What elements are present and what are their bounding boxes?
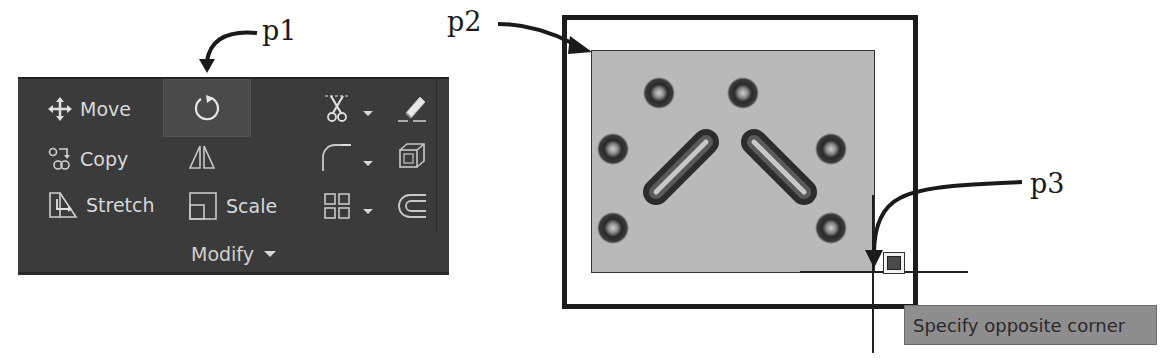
fillet-button[interactable] [321,141,353,173]
modify-ribbon-panel: Move Copy Stretch [18,77,449,275]
eraser-icon [396,93,428,123]
part-geometry [591,50,875,273]
trim-button[interactable] [323,93,351,123]
mirror-button[interactable] [188,144,216,170]
copy-label: Copy [80,148,128,170]
explode-cube-icon [398,142,426,170]
erase-button[interactable] [396,93,428,123]
scissors-trim-icon [323,93,351,123]
rotate-button[interactable] [163,79,251,137]
array-button[interactable] [323,192,351,220]
fillet-icon [321,141,353,173]
callout-p3-arrow-icon [862,170,1027,270]
callout-p1-label: p1 [262,17,296,44]
offset-button[interactable] [398,193,428,219]
stretch-icon [48,191,78,219]
hole-circles [597,77,847,244]
stretch-label: Stretch [86,194,155,216]
callout-p3-label: p3 [1030,170,1064,197]
scale-icon [188,191,218,221]
scale-label: Scale [226,195,277,217]
slots [656,142,804,192]
stretch-button[interactable]: Stretch [48,191,155,219]
move-label: Move [80,98,131,120]
offset-icon [398,193,428,219]
trim-dropdown-arrow[interactable] [363,111,373,116]
rotate-icon [192,93,222,123]
callout-p2-label: p2 [447,8,481,35]
array-grid-icon [323,192,351,220]
command-prompt-tooltip: Specify opposite corner [904,305,1157,345]
array-dropdown-arrow[interactable] [363,209,373,214]
callout-p1-arrow-icon [195,25,265,75]
mirror-icon [188,144,216,170]
scale-button[interactable]: Scale [188,191,277,221]
panel-divider [436,79,437,234]
copy-icon [48,146,72,172]
chevron-down-icon [264,251,276,257]
move-icon [48,97,72,121]
modify-panel-expand-button[interactable]: Modify [18,236,449,272]
modify-panel-title: Modify [191,243,254,265]
explode-button[interactable] [398,142,426,170]
move-button[interactable]: Move [48,97,131,121]
copy-button[interactable]: Copy [48,146,128,172]
fillet-dropdown-arrow[interactable] [363,161,373,166]
